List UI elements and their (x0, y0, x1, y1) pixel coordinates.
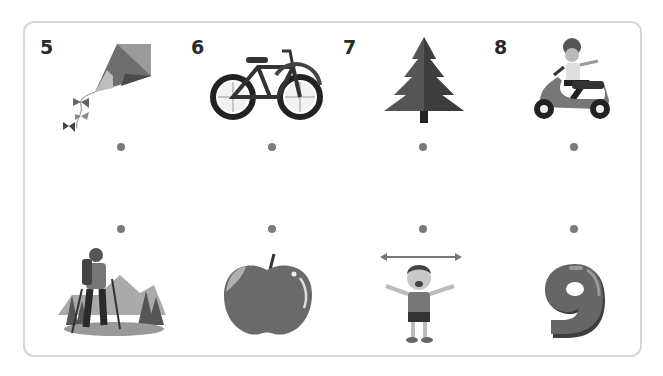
boy-arms-wide-icon[interactable] (380, 250, 462, 346)
bottom-dot-boy[interactable] (419, 225, 427, 233)
bottom-dot-hiker[interactable] (117, 225, 125, 233)
top-dot-6[interactable] (268, 143, 276, 151)
kite-icon[interactable] (55, 40, 155, 135)
bottom-dot-apple[interactable] (268, 225, 276, 233)
pine-tree-icon[interactable] (382, 37, 466, 125)
top-dot-7[interactable] (419, 143, 427, 151)
item-number-5: 5 (40, 36, 53, 58)
top-dot-8[interactable] (570, 143, 578, 151)
item-number-7: 7 (343, 36, 356, 58)
hiker-icon[interactable] (58, 245, 166, 337)
scooter-rider-icon[interactable] (528, 37, 614, 122)
item-number-6: 6 (191, 36, 204, 58)
number-nine-icon[interactable] (543, 262, 611, 340)
item-number-8: 8 (494, 36, 507, 58)
top-dot-5[interactable] (117, 143, 125, 151)
apple-icon[interactable] (220, 252, 315, 338)
bicycle-icon[interactable] (208, 45, 326, 120)
bottom-dot-nine[interactable] (570, 225, 578, 233)
